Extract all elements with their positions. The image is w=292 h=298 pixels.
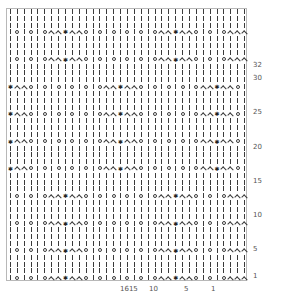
k-stitch-icon xyxy=(234,15,241,22)
k-stitch-icon xyxy=(21,226,28,233)
k-stitch-icon xyxy=(117,185,124,192)
k-stitch-icon xyxy=(131,42,138,49)
k-stitch-icon xyxy=(207,49,214,56)
k-stitch-icon xyxy=(103,213,110,220)
k-stitch-icon xyxy=(110,179,117,186)
k-stitch-icon xyxy=(48,76,55,83)
k-stitch-icon xyxy=(90,15,97,22)
k-stitch-icon xyxy=(62,49,69,56)
k-stitch-icon xyxy=(110,254,117,261)
k-stitch-icon xyxy=(90,117,97,124)
dec-stitch-icon xyxy=(55,28,62,35)
yo-stitch-icon xyxy=(97,220,104,227)
k-stitch-icon xyxy=(179,42,186,49)
k-stitch-icon xyxy=(90,22,97,29)
k-stitch-icon xyxy=(214,179,221,186)
k-stitch-icon xyxy=(124,76,131,83)
dec-stitch-icon xyxy=(179,28,186,35)
k-stitch-icon xyxy=(138,124,145,131)
k-stitch-icon xyxy=(35,151,42,158)
k-stitch-icon xyxy=(214,261,221,268)
yo-stitch-icon xyxy=(110,247,117,254)
k-stitch-icon xyxy=(124,233,131,240)
dec-stitch-icon xyxy=(124,165,131,172)
k-stitch-icon xyxy=(227,179,234,186)
k-stitch-icon xyxy=(48,179,55,186)
k-stitch-icon xyxy=(124,267,131,274)
k-stitch-icon xyxy=(90,192,97,199)
k-stitch-icon xyxy=(172,8,179,15)
k-stitch-icon xyxy=(28,104,35,111)
k-stitch-icon xyxy=(207,76,214,83)
k-stitch-icon xyxy=(220,226,227,233)
dec-stitch-icon xyxy=(227,138,234,145)
k-stitch-icon xyxy=(241,42,248,49)
k-stitch-icon xyxy=(7,56,14,63)
yo-stitch-icon xyxy=(83,192,90,199)
yo-stitch-icon xyxy=(55,138,62,145)
k-stitch-icon xyxy=(227,8,234,15)
k-stitch-icon xyxy=(234,172,241,179)
k-stitch-icon xyxy=(76,42,83,49)
k-stitch-icon xyxy=(117,63,124,70)
k-stitch-icon xyxy=(186,185,193,192)
k-stitch-icon xyxy=(152,261,159,268)
k-stitch-icon xyxy=(131,267,138,274)
k-stitch-icon xyxy=(7,69,14,76)
k-stitch-icon xyxy=(158,97,165,104)
k-stitch-icon xyxy=(28,22,35,29)
k-stitch-icon xyxy=(83,185,90,192)
k-stitch-icon xyxy=(179,206,186,213)
k-stitch-icon xyxy=(69,8,76,15)
k-stitch-icon xyxy=(214,76,221,83)
k-stitch-icon xyxy=(158,110,165,117)
k-stitch-icon xyxy=(62,172,69,179)
k-stitch-icon xyxy=(214,8,221,15)
k-stitch-icon xyxy=(35,42,42,49)
k-stitch-icon xyxy=(83,104,90,111)
k-stitch-icon xyxy=(97,104,104,111)
yo-stitch-icon xyxy=(97,83,104,90)
k-stitch-icon xyxy=(241,185,248,192)
k-stitch-icon xyxy=(7,104,14,111)
k-stitch-icon xyxy=(186,261,193,268)
k-stitch-icon xyxy=(220,172,227,179)
cdd-stitch-icon xyxy=(62,274,69,281)
k-stitch-icon xyxy=(97,76,104,83)
k-stitch-icon xyxy=(35,165,42,172)
k-stitch-icon xyxy=(145,213,152,220)
k-stitch-icon xyxy=(165,22,172,29)
k-stitch-icon xyxy=(117,76,124,83)
dec-stitch-icon xyxy=(76,56,83,63)
k-stitch-icon xyxy=(110,172,117,179)
k-stitch-icon xyxy=(35,117,42,124)
k-stitch-icon xyxy=(14,233,21,240)
dec-stitch-icon xyxy=(55,247,62,254)
k-stitch-icon xyxy=(172,158,179,165)
k-stitch-icon xyxy=(14,35,21,42)
k-stitch-icon xyxy=(76,83,83,90)
k-stitch-icon xyxy=(97,254,104,261)
k-stitch-icon xyxy=(214,267,221,274)
dec-stitch-icon xyxy=(234,56,241,63)
k-stitch-icon xyxy=(28,199,35,206)
k-stitch-icon xyxy=(117,247,124,254)
yo-stitch-icon xyxy=(83,83,90,90)
k-stitch-icon xyxy=(55,124,62,131)
k-stitch-icon xyxy=(220,158,227,165)
k-stitch-icon xyxy=(90,213,97,220)
k-stitch-icon xyxy=(193,15,200,22)
k-stitch-icon xyxy=(83,22,90,29)
k-stitch-icon xyxy=(152,42,159,49)
dec-stitch-icon xyxy=(124,110,131,117)
k-stitch-icon xyxy=(14,213,21,220)
k-stitch-icon xyxy=(200,220,207,227)
k-stitch-icon xyxy=(138,213,145,220)
k-stitch-icon xyxy=(193,35,200,42)
k-stitch-icon xyxy=(14,254,21,261)
k-stitch-icon xyxy=(41,267,48,274)
k-stitch-icon xyxy=(186,145,193,152)
k-stitch-icon xyxy=(179,49,186,56)
dec-stitch-icon xyxy=(76,28,83,35)
yo-stitch-icon xyxy=(165,138,172,145)
